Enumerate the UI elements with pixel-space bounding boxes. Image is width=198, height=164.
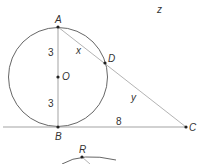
label-d: D [108,53,115,64]
label-bc-length: 8 [116,116,122,127]
label-ad-length: x [75,45,82,56]
point-r [80,155,83,158]
secant-ac [58,27,186,127]
label-c: C [189,122,197,133]
label-ao-length: 3 [48,47,54,58]
geometry-diagram: z A O B D C 3 3 x y 8 R [0,0,198,164]
point-o [56,75,59,78]
label-r: R [79,144,86,155]
point-a [56,25,59,28]
point-b [56,125,59,128]
label-b: B [55,131,62,142]
label-z: z [156,4,162,15]
point-d [103,61,106,64]
point-c [184,125,187,128]
label-a: A [54,14,62,25]
label-dc-length: y [130,92,137,103]
label-ob-length: 3 [48,98,54,109]
label-o: O [62,71,70,82]
